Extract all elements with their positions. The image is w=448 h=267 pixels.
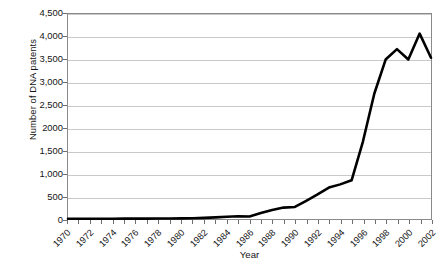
dna-patents-line-chart: Number of DNA patents 05001,0001,5002000… bbox=[0, 0, 448, 267]
x-axis-tick-labels: 1970197219741976197819801982198419861988… bbox=[0, 0, 448, 267]
x-axis-title: Year bbox=[67, 249, 432, 260]
